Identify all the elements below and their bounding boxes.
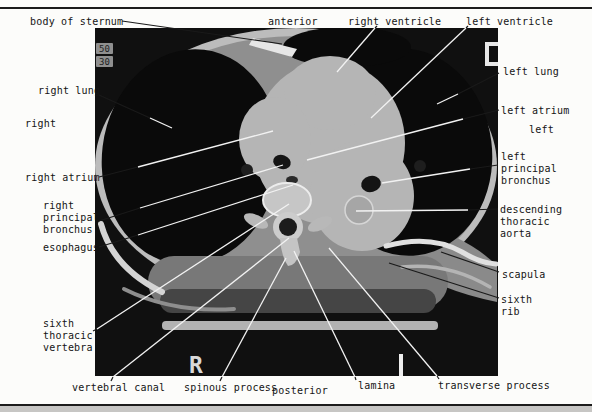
scanner-table-bar [162, 321, 438, 330]
label-right-atrium: right atrium [25, 172, 100, 184]
ct-value-top: 50 [99, 44, 110, 54]
label-left-lung: left lung [503, 66, 559, 78]
label-vertebral-canal: vertebral canal [72, 382, 165, 394]
label-esophagus: esophagus [43, 242, 99, 254]
label-right-ventricle: right ventricle [348, 16, 441, 28]
label-spinous-process: spinous process [184, 382, 277, 394]
vessel-dark-left [414, 160, 426, 172]
ct-scan-image: 50 30 R [95, 28, 498, 376]
label-posterior: posterior [272, 385, 328, 397]
label-left-atrium: left atrium [501, 105, 569, 117]
label-right-principal-bronchus: right principal bronchus [43, 200, 99, 236]
label-left: left [529, 124, 554, 136]
leader-line-transverse-process [437, 376, 439, 379]
leader-line-lamina [355, 377, 356, 380]
figure-page: 50 30 R body of sternumanteriorright ven… [0, 0, 592, 412]
label-right-lung: right lung [38, 85, 100, 97]
label-anterior: anterior [268, 16, 318, 28]
footer-band [0, 406, 592, 412]
vessel-dark-right [241, 164, 253, 176]
vertebral-body-bone [263, 183, 311, 217]
label-left-ventricle: left ventricle [466, 16, 553, 28]
label-scapula: scapula [502, 269, 546, 281]
right-side-marker: R [189, 352, 203, 376]
aorta-cross-section [345, 196, 373, 224]
leader-line-spinous-process [220, 377, 222, 381]
label-sixth-rib: sixth rib [501, 294, 532, 318]
label-left-principal-bronchus: left principal bronchus [501, 151, 557, 187]
label-descending-thoracic-aorta: descending thoracic aorta [500, 204, 562, 240]
label-lamina: lamina [358, 380, 395, 392]
label-sixth-thoracic-vertebra: sixth thoracic vertebra [43, 318, 93, 354]
label-transverse-process: transverse process [438, 380, 550, 392]
back-muscles [148, 256, 448, 313]
label-body-of-sternum: body of sternum [30, 16, 123, 28]
leader-line-vertebral-canal [111, 377, 113, 381]
top-rule [0, 7, 592, 9]
left-side-marker-bar [399, 354, 403, 376]
vertebral-canal-hole [279, 218, 297, 236]
ct-value-bottom: 30 [99, 57, 110, 67]
label-right: right [25, 118, 56, 130]
